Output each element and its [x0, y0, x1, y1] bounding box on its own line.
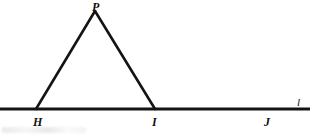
line-label-l: l [297, 97, 300, 108]
vertex-label-i: I [152, 116, 157, 128]
vertex-label-p: P [92, 1, 99, 13]
triangle-side-hp [36, 11, 95, 109]
vertex-label-h: H [33, 116, 42, 128]
point-label-j: J [264, 116, 270, 128]
triangle-side-pi [95, 11, 155, 109]
geometry-figure: P H I J l [0, 0, 312, 135]
